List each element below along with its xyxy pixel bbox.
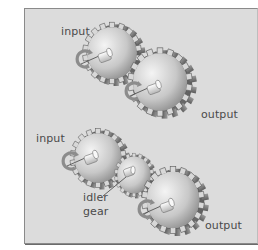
bottom-input-label: input [36, 133, 65, 145]
top-input-label: input [61, 26, 90, 38]
idler-label-line2: gear [83, 206, 108, 218]
top-output-label: output [201, 109, 238, 121]
bottom-output-label: output [205, 220, 242, 232]
idler-label-line1: idler [83, 192, 108, 204]
gear-diagram [0, 0, 258, 250]
